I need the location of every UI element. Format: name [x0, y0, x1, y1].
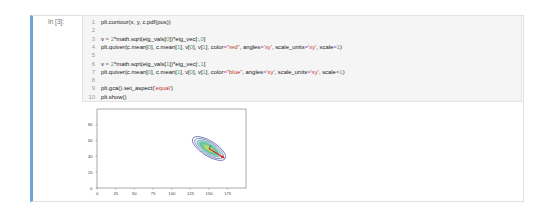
- code-token: plt.gca().set_aspect(: [101, 85, 154, 91]
- y-tick-label: 80: [88, 122, 93, 127]
- x-tick-label: 25: [114, 191, 119, 196]
- code-line[interactable]: 6v = 2*math.sqrt(eig_vals[1])*eig_vec[:,…: [83, 60, 521, 68]
- code-text: plt.show(): [101, 93, 127, 101]
- code-token: ], v[: [180, 44, 190, 50]
- code-text: v = 2*math.sqrt(eig_vals[1])*eig_vec[:,1…: [101, 60, 205, 68]
- code-line[interactable]: 4plt.quiver(c.mean[0], c.mean[1], v[0], …: [83, 43, 521, 51]
- code-line[interactable]: 8: [83, 76, 521, 84]
- code-token: ): [171, 85, 173, 91]
- code-token: *math.sqrt(eig_vals[: [114, 61, 166, 67]
- x-tick-label: 125: [187, 191, 194, 196]
- code-line[interactable]: 1plt.contour(x, y, c.pdf(pos)): [83, 18, 521, 26]
- code-token: ])*eig_vec[:,: [169, 36, 200, 42]
- code-line[interactable]: 2: [83, 26, 521, 34]
- x-tick-label: 75: [151, 191, 156, 196]
- code-token: plt.quiver(c.mean[: [101, 69, 148, 75]
- code-token: "blue": [227, 69, 242, 75]
- code-token: *math.sqrt(eig_vals[: [114, 36, 166, 42]
- code-line[interactable]: 5: [83, 51, 521, 59]
- code-editor[interactable]: 1plt.contour(x, y, c.pdf(pos))23v = 2*ma…: [82, 15, 522, 102]
- code-token: "red": [227, 44, 240, 50]
- code-token: , scale: [319, 69, 336, 75]
- line-number: 1: [86, 18, 95, 26]
- line-number: 10: [86, 93, 95, 101]
- code-token: , scale_units: [275, 69, 308, 75]
- code-token: 'xy': [266, 69, 274, 75]
- code-line[interactable]: 10plt.show(): [83, 93, 521, 101]
- code-text: plt.contour(x, y, c.pdf(pos)): [101, 18, 171, 26]
- axes-frame: [97, 109, 246, 188]
- line-number: 5: [86, 51, 95, 59]
- x-tick-label: 0: [96, 191, 98, 196]
- code-token: ], v[: [193, 69, 203, 75]
- y-tick-label: 0: [90, 186, 92, 191]
- line-number: 7: [86, 68, 95, 76]
- code-text: plt.quiver(c.mean[0], c.mean[1], v[0], v…: [101, 43, 342, 51]
- code-token: , scale: [316, 44, 333, 50]
- code-line[interactable]: 3v = 2*math.sqrt(eig_vals[0])*eig_vec[:,…: [83, 35, 521, 43]
- code-token: plt.contour(x, y, c.pdf(pos)): [101, 19, 171, 25]
- code-token: ], color: [206, 69, 224, 75]
- code-token: ): [343, 69, 345, 75]
- output-plot: 0 20 40 60 80 0 25 50 75 100 125 150 175: [82, 104, 252, 199]
- code-token: plt.show(): [101, 94, 127, 100]
- code-token: ): [340, 44, 342, 50]
- code-line[interactable]: 9plt.gca().set_aspect('equal'): [83, 84, 521, 92]
- code-text: plt.quiver(c.mean[0], c.mean[1], v[0], v…: [101, 68, 345, 76]
- x-tick-label: 50: [132, 191, 137, 196]
- code-line[interactable]: 7plt.quiver(c.mean[0], c.mean[1], v[0], …: [83, 68, 521, 76]
- code-token: 'xy': [311, 69, 319, 75]
- line-number: 2: [86, 26, 95, 34]
- line-number: 6: [86, 60, 95, 68]
- code-token: ], color: [206, 44, 224, 50]
- code-token: , angles: [242, 69, 263, 75]
- code-token: 'equal': [154, 85, 171, 91]
- code-text: v = 2*math.sqrt(eig_vals[0])*eig_vec[:,0…: [101, 35, 205, 43]
- x-tick-label: 175: [224, 191, 231, 196]
- line-number: 8: [86, 76, 95, 84]
- code-token: ]: [204, 36, 206, 42]
- code-token: 'xy': [264, 44, 272, 50]
- x-tick-label: 150: [206, 191, 213, 196]
- y-tick-label: 20: [88, 170, 93, 175]
- code-token: ]: [204, 61, 206, 67]
- code-token: , angles: [240, 44, 261, 50]
- code-token: ])*eig_vec[:,: [169, 61, 200, 67]
- code-token: , scale_units: [272, 44, 305, 50]
- contour-chart: [82, 104, 252, 199]
- code-token: ], v[: [180, 69, 190, 75]
- line-number: 4: [86, 43, 95, 51]
- code-token: plt.quiver(c.mean[: [101, 44, 148, 50]
- line-number: 3: [86, 35, 95, 43]
- x-tick-label: 100: [168, 191, 175, 196]
- y-tick-label: 60: [88, 138, 93, 143]
- line-number: 9: [86, 84, 95, 92]
- y-tick-label: 40: [88, 154, 93, 159]
- input-prompt: In [3]:: [48, 18, 64, 25]
- code-token: ], c.mean[: [151, 69, 177, 75]
- code-token: ], c.mean[: [151, 44, 177, 50]
- code-text: plt.gca().set_aspect('equal'): [101, 84, 173, 92]
- code-token: ], v[: [193, 44, 203, 50]
